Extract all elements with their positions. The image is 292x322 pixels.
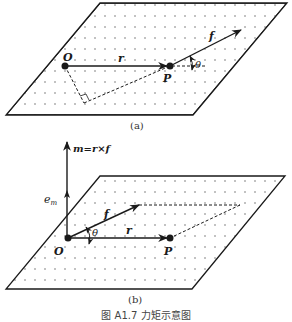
label-theta-b: θ [92, 227, 98, 238]
point-p-a [167, 63, 174, 70]
panel-label-b: (b) [128, 294, 142, 305]
figure-caption: 图 A1.7 力矩示意图 [101, 309, 190, 321]
label-m-equation: m=r×f [73, 143, 112, 154]
point-o-b [65, 235, 72, 242]
plane-a [6, 3, 287, 115]
label-p-a: P [162, 72, 172, 85]
point-p-b [167, 235, 174, 242]
label-o-b: O [54, 245, 64, 258]
panel-b: O P r f θ m=r×f em (b) [6, 142, 285, 305]
panel-a: O P r f θ (a) [6, 3, 287, 131]
torque-diagram: O P r f θ (a) O P r f θ m=r×f em (b) [0, 0, 292, 322]
label-o-a: O [63, 51, 73, 64]
label-theta-a: θ [195, 59, 201, 70]
panel-label-a: (a) [130, 120, 144, 131]
label-e: em [44, 193, 58, 207]
label-p-b: P [163, 245, 173, 258]
